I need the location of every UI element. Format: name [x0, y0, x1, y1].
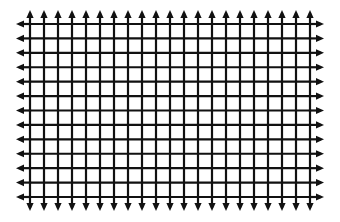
arrow-up-icon [208, 10, 215, 18]
arrow-up-icon [180, 10, 187, 18]
arrow-up-icon [222, 10, 229, 18]
grid-lines [30, 24, 310, 197]
arrow-up-icon [40, 10, 47, 18]
arrow-up-icon [54, 10, 61, 18]
arrow-left-icon [16, 121, 24, 128]
arrow-right-icon [316, 35, 324, 42]
arrow-down-icon [264, 203, 271, 211]
arrow-left-icon [16, 136, 24, 143]
arrow-left-icon [16, 92, 24, 99]
arrow-up-icon [82, 10, 89, 18]
arrow-down-icon [110, 203, 117, 211]
arrow-left-icon [16, 150, 24, 157]
arrow-down-icon [54, 203, 61, 211]
arrow-down-icon [166, 203, 173, 211]
arrow-up-icon [194, 10, 201, 18]
arrow-down-icon [292, 203, 299, 211]
arrow-up-icon [138, 10, 145, 18]
arrow-down-icon [96, 203, 103, 211]
arrow-right-icon [316, 64, 324, 71]
arrow-down-icon [180, 203, 187, 211]
arrow-up-icon [166, 10, 173, 18]
arrow-up-icon [152, 10, 159, 18]
arrow-up-icon [26, 10, 33, 18]
arrow-left-icon [16, 179, 24, 186]
arrow-up-icon [292, 10, 299, 18]
arrow-down-icon [152, 203, 159, 211]
arrow-down-icon [138, 203, 145, 211]
arrow-down-icon [68, 203, 75, 211]
arrow-up-icon [278, 10, 285, 18]
arrow-left-icon [16, 78, 24, 85]
arrow-left-icon [16, 64, 24, 71]
arrow-up-icon [96, 10, 103, 18]
arrow-right-icon [316, 179, 324, 186]
arrow-right-icon [316, 92, 324, 99]
arrow-down-icon [236, 203, 243, 211]
arrow-down-icon [278, 203, 285, 211]
arrow-right-icon [316, 49, 324, 56]
arrow-right-icon [316, 78, 324, 85]
arrow-left-icon [16, 193, 24, 200]
arrow-down-icon [82, 203, 89, 211]
arrow-down-icon [250, 203, 257, 211]
grid-diagram [0, 0, 340, 222]
arrow-right-icon [316, 121, 324, 128]
arrow-down-icon [222, 203, 229, 211]
arrow-right-icon [316, 20, 324, 27]
arrow-down-icon [26, 203, 33, 211]
arrow-up-icon [250, 10, 257, 18]
arrow-right-icon [316, 136, 324, 143]
arrow-right-icon [316, 193, 324, 200]
arrow-up-icon [124, 10, 131, 18]
arrow-right-icon [316, 165, 324, 172]
arrow-down-icon [194, 203, 201, 211]
arrow-up-icon [236, 10, 243, 18]
arrow-right-icon [316, 107, 324, 114]
arrow-left-icon [16, 165, 24, 172]
arrow-left-icon [16, 20, 24, 27]
arrow-left-icon [16, 35, 24, 42]
arrow-down-icon [306, 203, 313, 211]
arrow-up-icon [306, 10, 313, 18]
arrow-left-icon [16, 49, 24, 56]
arrow-up-icon [264, 10, 271, 18]
arrow-right-icon [316, 150, 324, 157]
arrow-up-icon [68, 10, 75, 18]
arrow-down-icon [124, 203, 131, 211]
arrow-left-icon [16, 107, 24, 114]
arrow-down-icon [208, 203, 215, 211]
arrow-down-icon [40, 203, 47, 211]
arrow-up-icon [110, 10, 117, 18]
